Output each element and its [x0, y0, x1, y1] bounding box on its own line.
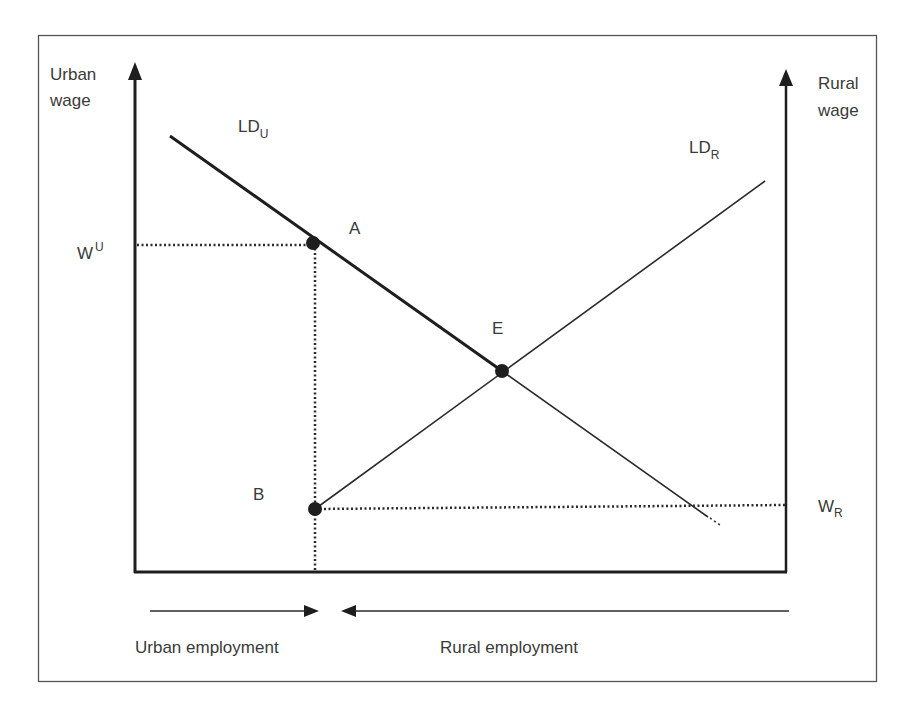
left-axis-label-line2: wage [49, 91, 91, 110]
figure-frame [39, 36, 877, 682]
ld-rural-curve [315, 181, 765, 509]
labor-market-diagram: Urban wage Rural wage LDU LDR A E B WU W… [0, 0, 912, 716]
right-axis [779, 69, 793, 572]
point-a-label: A [349, 219, 361, 238]
arrow-right-icon [304, 605, 319, 617]
rural-wage-guide [315, 505, 785, 509]
ld-urban-label: LDU [238, 117, 268, 141]
point-b-label: B [253, 485, 264, 504]
point-a-marker [306, 236, 320, 250]
point-b-marker [308, 502, 322, 516]
point-e-label: E [492, 319, 503, 338]
ld-urban-curve [170, 136, 720, 525]
rural-employment-arrow [341, 605, 789, 617]
ld-rural-label: LDR [689, 138, 720, 162]
rural-wage-label: WR [818, 497, 843, 520]
right-axis-arrow-icon [779, 69, 793, 86]
rural-employment-label: Rural employment [440, 638, 578, 657]
urban-wage-label: WU [77, 240, 104, 263]
right-axis-label-line2: wage [817, 101, 859, 120]
right-axis-label-line1: Rural [818, 74, 859, 93]
arrow-left-icon [341, 605, 356, 617]
point-e-marker [495, 364, 509, 378]
urban-employment-label: Urban employment [135, 638, 279, 657]
left-axis-arrow-icon [128, 62, 142, 80]
urban-employment-arrow [150, 605, 319, 617]
left-axis [128, 62, 142, 573]
left-axis-label-line1: Urban [50, 65, 96, 84]
